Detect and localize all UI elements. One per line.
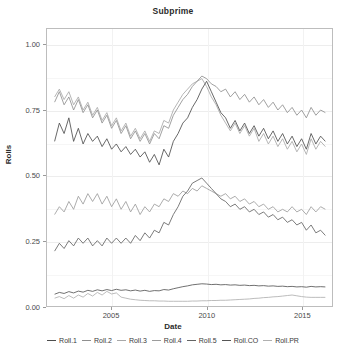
y-tick-mark — [43, 44, 46, 45]
legend-key-icon — [187, 340, 196, 342]
legend-label: Roll.2 — [94, 337, 112, 344]
y-tick-label: 1.00 — [0, 39, 40, 48]
legend-key-icon — [152, 340, 161, 342]
x-tick-mark — [302, 307, 303, 310]
y-tick-mark — [43, 175, 46, 176]
series-lines — [47, 29, 332, 306]
legend-item-roll-2[interactable]: Roll.2 — [82, 337, 112, 344]
y-tick-mark — [43, 307, 46, 308]
series-line-roll-co — [55, 284, 326, 294]
chart-container: Subprime 0.000.250.500.751.00 2005201020… — [0, 0, 346, 359]
legend-label: Roll.3 — [129, 337, 147, 344]
series-line-roll-pr — [55, 291, 326, 301]
x-tick-label: 2015 — [294, 311, 311, 320]
legend-key-icon — [263, 340, 272, 342]
legend-item-roll-5[interactable]: Roll.5 — [187, 337, 217, 344]
x-tick-label: 2010 — [198, 311, 215, 320]
series-line-roll-5 — [55, 178, 326, 251]
legend-label: Roll.CO — [234, 337, 259, 344]
x-tick-label: 2005 — [103, 311, 120, 320]
y-tick-mark — [43, 241, 46, 242]
legend-label: Roll.5 — [199, 337, 217, 344]
y-tick-mark — [43, 110, 46, 111]
legend-item-roll-1[interactable]: Roll.1 — [47, 337, 77, 344]
legend-key-icon — [47, 340, 56, 342]
plot-panel — [46, 28, 333, 307]
x-tick-mark — [207, 307, 208, 310]
y-tick-label: 0.00 — [0, 303, 40, 312]
legend-item-roll-3[interactable]: Roll.3 — [117, 337, 147, 344]
legend-label: Roll.1 — [59, 337, 77, 344]
legend-item-roll-pr[interactable]: Roll.PR — [263, 337, 299, 344]
y-tick-label: 0.25 — [0, 237, 40, 246]
legend-item-roll-4[interactable]: Roll.4 — [152, 337, 182, 344]
legend-key-icon — [222, 340, 231, 342]
chart-title: Subprime — [0, 6, 346, 16]
legend-key-icon — [117, 340, 126, 342]
x-tick-mark — [111, 307, 112, 310]
chart-legend: Roll.1Roll.2Roll.3Roll.4Roll.5Roll.CORol… — [0, 337, 346, 344]
y-tick-label: 0.75 — [0, 105, 40, 114]
legend-key-icon — [82, 340, 91, 342]
legend-item-roll-co[interactable]: Roll.CO — [222, 337, 259, 344]
y-axis-title: Rolls — [4, 125, 13, 185]
series-line-roll-4 — [55, 186, 326, 215]
x-axis-title: Date — [0, 322, 346, 331]
legend-label: Roll.PR — [275, 337, 299, 344]
series-line-roll-1 — [55, 81, 326, 165]
legend-label: Roll.4 — [164, 337, 182, 344]
